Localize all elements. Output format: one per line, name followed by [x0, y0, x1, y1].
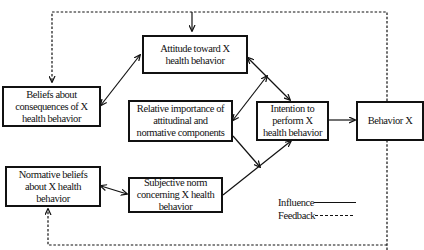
beliefs-label-line2: consequences of X [15, 101, 88, 112]
behavior-box: Behavior X [356, 101, 424, 141]
relative-importance-box: Relative importance ofattitudinal andnor… [128, 100, 233, 142]
intention-label-line3: health behavior [263, 127, 322, 138]
legend-influence: Influence [278, 196, 356, 209]
behavior-label: Behavior X [368, 115, 413, 127]
normative-label-line2: about X health [25, 181, 81, 192]
solid-line-swatch [314, 202, 356, 203]
normative-label-line1: Normative beliefs [19, 169, 88, 180]
legend-influence-label: Influence [278, 196, 314, 209]
beliefs-label-line1: Beliefs about [26, 89, 77, 100]
subjective-norm-box: Subjective normconcerning X healthbehavi… [128, 177, 223, 213]
attitude-box: Attitude toward Xhealth behavior [142, 35, 248, 74]
subjective-label-line3: behavior [159, 201, 193, 212]
legend-feedback-label: Feedback [278, 209, 315, 222]
attitude-label-line2: health behavior [165, 55, 224, 66]
dashed-line-swatch [315, 215, 353, 216]
beliefs-box: Beliefs aboutconsequences of Xhealth beh… [2, 86, 101, 127]
normative-beliefs-box: Normative beliefsabout X healthbehavior [5, 166, 101, 207]
relative-label-line1: Relative importance of [137, 103, 224, 114]
normative-label-line3: behavior [36, 193, 70, 204]
intention-box: Intention toperform Xhealth behavior [256, 101, 329, 141]
subjective-label-line2: concerning X health [137, 189, 215, 200]
beliefs-label-line3: health behavior [22, 113, 81, 124]
legend: Influence Feedback [278, 196, 356, 222]
subjective-label-line1: Subjective norm [144, 177, 207, 188]
legend-feedback: Feedback [278, 209, 356, 222]
relative-label-line3: normative components [137, 127, 225, 138]
intention-label-line2: perform X [272, 115, 312, 126]
relative-label-line2: attitudinal and [153, 115, 207, 126]
attitude-label-line1: Attitude toward X [160, 43, 230, 54]
intention-label-line1: Intention to [271, 103, 315, 114]
